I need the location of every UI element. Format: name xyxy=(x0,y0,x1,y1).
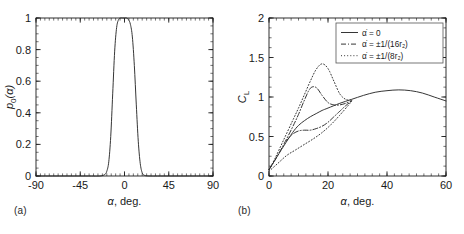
x-tick-label: 45 xyxy=(163,179,175,191)
legend-label: α̇ = ±1/(8r₂) xyxy=(362,52,404,61)
figure-two-panel: -90-450459000.20.40.60.81α, deg.p0(α) (a… xyxy=(0,0,464,234)
x-axis-title: α, deg. xyxy=(341,195,375,207)
y-tick-label: 0.2 xyxy=(16,138,31,150)
data-curve xyxy=(36,18,213,176)
panel-b-label: (b) xyxy=(238,205,251,216)
y-tick-label: 0 xyxy=(25,170,31,182)
y-tick-label: 0 xyxy=(258,170,264,182)
panel-a: -90-450459000.20.40.60.81α, deg.p0(α) (a… xyxy=(0,0,232,234)
y-tick-label: 1 xyxy=(258,91,264,103)
x-tick-label: 0 xyxy=(121,179,127,191)
panel-b-plot: α̇ = 0α̇ = ±1/(16r₂)α̇ = ±1/(8r₂) 020406… xyxy=(232,0,464,234)
x-tick-label: 0 xyxy=(266,179,272,191)
y-tick-label: 1 xyxy=(25,12,31,24)
y-tick-label: 0.5 xyxy=(249,131,264,143)
x-tick-label: 60 xyxy=(440,179,452,191)
panel-a-label: (a) xyxy=(14,205,27,216)
y-tick-label: 0.6 xyxy=(16,75,31,87)
data-curve xyxy=(269,87,352,170)
legend-label: α̇ = ±1/(16r₂) xyxy=(362,40,408,49)
x-tick-label: -45 xyxy=(72,179,88,191)
y-tick-label: 2 xyxy=(258,12,264,24)
x-tick-label: 90 xyxy=(207,179,219,191)
y-tick-label: 0.4 xyxy=(16,107,31,119)
y-tick-label: 1.5 xyxy=(249,52,264,64)
panel-b: α̇ = 0α̇ = ±1/(16r₂)α̇ = ±1/(8r₂) 020406… xyxy=(232,0,464,234)
y-axis-title: CL xyxy=(236,90,251,103)
legend-label: α̇ = 0 xyxy=(362,29,381,38)
data-curve xyxy=(269,90,446,170)
panel-a-plot: -90-450459000.20.40.60.81α, deg.p0(α) xyxy=(0,0,232,234)
x-axis-title: α, deg. xyxy=(108,195,142,207)
y-tick-label: 0.8 xyxy=(16,44,31,56)
x-tick-label: 20 xyxy=(322,179,334,191)
plot-frame xyxy=(36,18,213,176)
x-tick-label: 40 xyxy=(381,179,393,191)
